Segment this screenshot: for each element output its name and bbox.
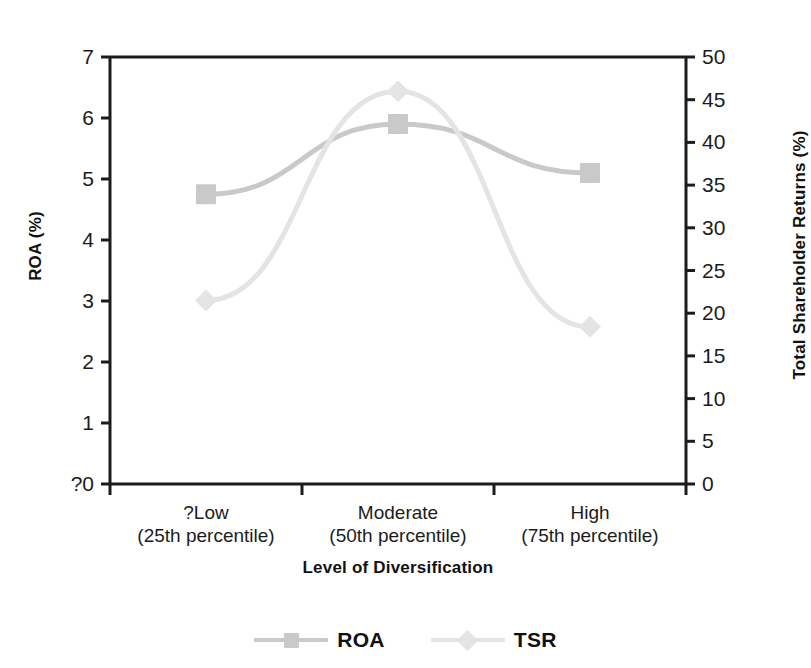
chart-figure: ROA (%) Total Shareholder Returns (%) Le…: [0, 0, 811, 668]
y-axis-right-tick-label: 40: [702, 131, 748, 152]
x-axis-title: Level of Diversification: [110, 558, 686, 578]
y-axis-right-tick-label: 10: [702, 388, 748, 409]
y-axis-left-tick-label: ?0: [48, 473, 94, 494]
data-point-tsr-0: [195, 289, 217, 311]
legend-marker-diamond-icon: [457, 629, 478, 650]
data-point-roa-1: [388, 114, 408, 134]
y-axis-left-tick-label: 4: [48, 229, 94, 250]
category-sublabel: (25th percentile): [110, 524, 302, 547]
legend-item-tsr[interactable]: TSR: [431, 628, 557, 652]
y-axis-right-tick-label: 45: [702, 89, 748, 110]
data-point-tsr-2: [579, 316, 601, 338]
y-axis-left-tick-label: 5: [48, 168, 94, 189]
category-name: ?Low: [110, 501, 302, 524]
chart-legend: ROATSR: [0, 628, 811, 652]
data-series-layer: [195, 80, 601, 338]
series-line-roa: [206, 124, 590, 194]
legend-marker-square-icon: [284, 633, 299, 648]
y-axis-right-tick-label: 50: [702, 46, 748, 67]
y-axis-left-tick-label: 1: [48, 412, 94, 433]
legend-line-roa: [254, 638, 328, 643]
y-axis-right-tick-label: 0: [702, 473, 748, 494]
category-name: High: [494, 501, 686, 524]
y-axis-right-tick-label: 25: [702, 260, 748, 281]
legend-line-tsr: [431, 638, 505, 643]
x-axis-category-label: ?Low(25th percentile): [110, 501, 302, 547]
y-axis-right-title: Total Shareholder Returns (%): [790, 95, 810, 415]
category-sublabel: (75th percentile): [494, 524, 686, 547]
y-axis-right-tick-label: 35: [702, 174, 748, 195]
y-axis-right-tick-label: 5: [702, 430, 748, 451]
x-axis-ticks: [110, 484, 686, 495]
y-axis-right-tick-label: 15: [702, 345, 748, 366]
y-axis-left-title: ROA (%): [26, 166, 46, 326]
legend-label: ROA: [337, 628, 385, 652]
y-axis-left-tick-label: 6: [48, 107, 94, 128]
y-axis-left-tick-label: 3: [48, 290, 94, 311]
y-axis-right-tick-label: 20: [702, 302, 748, 323]
category-sublabel: (50th percentile): [302, 524, 494, 547]
y-axis-left-tick-label: 7: [48, 46, 94, 67]
data-point-roa-2: [580, 163, 600, 183]
legend-item-roa[interactable]: ROA: [254, 628, 385, 652]
x-axis-category-label: Moderate(50th percentile): [302, 501, 494, 547]
legend-label: TSR: [514, 628, 557, 652]
y-axis-left-tick-label: 2: [48, 351, 94, 372]
x-axis-category-label: High(75th percentile): [494, 501, 686, 547]
data-point-roa-0: [196, 184, 216, 204]
category-name: Moderate: [302, 501, 494, 524]
data-point-tsr-1: [387, 80, 409, 102]
y-axis-right-tick-label: 30: [702, 217, 748, 238]
